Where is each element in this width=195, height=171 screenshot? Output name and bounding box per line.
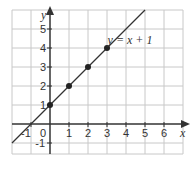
function-line (12, 10, 145, 143)
svg-text:-1: -1 (35, 137, 45, 149)
svg-text:4: 4 (40, 42, 46, 54)
x-axis-label: x (179, 126, 186, 140)
graph-canvas: -1 0 1 2 3 4 5 6 -1 1 2 3 4 5 y x y = x … (0, 0, 195, 171)
grid (12, 10, 183, 154)
svg-text:3: 3 (104, 127, 110, 139)
axes (12, 10, 184, 154)
svg-text:6: 6 (161, 127, 167, 139)
svg-text:2: 2 (40, 80, 46, 92)
svg-text:3: 3 (40, 61, 46, 73)
svg-text:-1: -1 (21, 127, 31, 139)
svg-text:4: 4 (123, 127, 129, 139)
point-1-2 (66, 83, 72, 89)
point-2-3 (85, 64, 91, 70)
svg-text:1: 1 (66, 127, 72, 139)
svg-text:2: 2 (85, 127, 91, 139)
svg-text:1: 1 (40, 99, 46, 111)
y-axis-label: y (40, 8, 47, 22)
equation-label: y = x + 1 (107, 33, 153, 47)
svg-text:5: 5 (142, 127, 148, 139)
point-0-1 (47, 102, 53, 108)
svg-text:5: 5 (40, 23, 46, 35)
